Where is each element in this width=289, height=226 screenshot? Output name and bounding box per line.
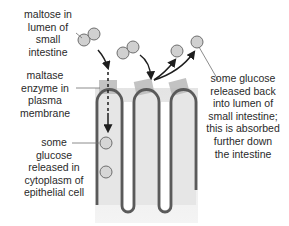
arrow-maltose-to-villus-1 bbox=[98, 50, 108, 68]
label-glucose-cytoplasm: some glucose released in cytoplasm of ep… bbox=[14, 136, 94, 199]
arrow-glucose-release-1 bbox=[154, 60, 175, 80]
glucose-lumen-1 bbox=[171, 45, 183, 57]
glucose-lumen-2 bbox=[191, 36, 203, 48]
maltose-molecule-2 bbox=[117, 41, 139, 59]
glucose-cytoplasm-1 bbox=[100, 137, 112, 149]
glucose-cytoplasm-2 bbox=[100, 166, 112, 178]
arrow-maltose-to-villus-2 bbox=[140, 55, 151, 78]
villi-cells bbox=[97, 90, 196, 211]
label-maltase: maltase enzyme in plasma membrane bbox=[12, 69, 78, 119]
label-maltose: maltose in lumen of small intestine bbox=[18, 8, 78, 58]
label-glucose-lumen: some glucose released back into lumen of… bbox=[198, 72, 288, 160]
